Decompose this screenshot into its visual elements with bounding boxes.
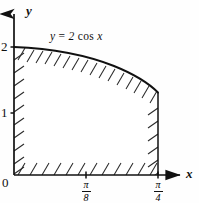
y-tick-label-1: 1 (1, 106, 8, 119)
pi-over-8-denominator: 8 (76, 193, 96, 204)
pi-over-4-numerator: π (148, 180, 168, 191)
figure-container: y x 0 2 1 π 8 π 4 y = 2 cos x (0, 0, 199, 203)
x-tick-label-pi-over-8: π 8 (76, 180, 96, 203)
y-axis-label: y (26, 4, 32, 17)
y-tick-label-2: 2 (1, 40, 8, 53)
x-axis-label: x (186, 167, 193, 180)
equation-function: cos (78, 30, 94, 42)
pi-over-8-numerator: π (76, 180, 96, 191)
pi-over-4-denominator: 4 (148, 193, 168, 204)
equation-equals: = (59, 30, 66, 42)
curve-equation-label: y = 2 cos x (50, 31, 103, 43)
x-tick-label-pi-over-4: π 4 (148, 180, 168, 203)
origin-label: 0 (2, 176, 9, 189)
shaded-region (14, 47, 158, 180)
equation-coefficient: 2 (69, 30, 75, 42)
equation-variable: x (97, 30, 102, 42)
equation-lhs: y (50, 30, 55, 42)
